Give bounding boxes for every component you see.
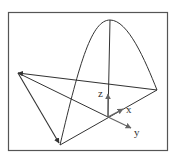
x-axis-label: x <box>126 103 132 115</box>
x-axis-arrow <box>108 109 123 117</box>
vector-right-to-left <box>18 73 157 90</box>
z-axis-label: z <box>98 87 103 99</box>
y-axis-arrow <box>108 117 131 128</box>
coordinate-diagram: z x y <box>0 0 178 157</box>
y-axis-label: y <box>134 126 140 138</box>
